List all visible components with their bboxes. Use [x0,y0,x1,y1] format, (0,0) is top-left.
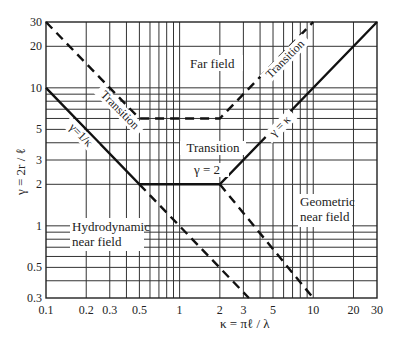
hydrodynamic-label-line1: Hydrodynamic [72,219,150,234]
geometric-label-line1: Geometric [300,194,355,209]
x-tick-label: 0.1 [39,303,54,317]
y-tick-label: 30 [30,15,42,29]
geometric-label-line2: near field [300,209,350,224]
y-axis-label: γ = 2r / ℓ [13,148,28,196]
x-tick-label: 1 [177,303,183,317]
x-tick-labels: 0.10.20.30.51235102030 [39,303,384,317]
x-tick-label: 10 [307,303,319,317]
x-tick-label: 5 [270,303,276,317]
transition-mid-label: Transition [187,140,240,155]
y-tick-label: 5 [36,122,42,136]
y-tick-label: 3 [36,153,42,167]
diagram-chart: 0.10.20.30.51235102030 0.30.51235102030 … [0,0,400,347]
x-tick-label: 2 [217,303,223,317]
y-tick-labels: 0.30.51235102030 [27,15,42,305]
far-field-label: Far field [190,56,235,71]
x-tick-label: 20 [347,303,359,317]
x-tick-label: 0.2 [79,303,94,317]
y-tick-label: 0.3 [27,291,42,305]
y-tick-label: 20 [30,39,42,53]
y-tick-label: 10 [30,81,42,95]
gamma-2-label: γ = 2 [193,162,220,177]
hydrodynamic-label-line2: near field [72,234,122,249]
y-tick-label: 0.5 [27,260,42,274]
x-tick-label: 0.3 [102,303,117,317]
x-tick-label: 30 [371,303,383,317]
x-tick-label: 0.5 [132,303,147,317]
x-axis-label: κ = πℓ / λ [220,316,270,331]
y-tick-label: 2 [36,177,42,191]
y-tick-label: 1 [36,219,42,233]
x-tick-label: 3 [240,303,246,317]
